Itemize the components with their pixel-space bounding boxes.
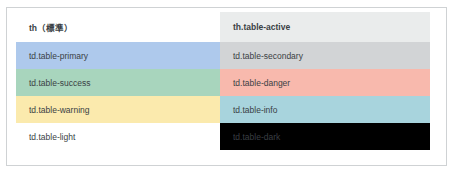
table-body: td.table-primary td.table-secondary td.t… <box>16 42 430 150</box>
table-row: td.table-success td.table-danger <box>16 69 430 96</box>
table-head: th（標準） th.table-active <box>16 12 430 42</box>
table-row: td.table-light td.table-dark <box>16 123 430 150</box>
content-frame: th（標準） th.table-active td.table-primary … <box>6 7 447 166</box>
cell-table-primary: td.table-primary <box>16 42 220 69</box>
table-container: th（標準） th.table-active td.table-primary … <box>16 12 430 150</box>
clipped-top-text: — ——— ————— <box>6 0 98 4</box>
table-row: td.table-warning td.table-info <box>16 96 430 123</box>
cell-table-light: td.table-light <box>16 123 220 150</box>
header-cell-standard: th（標準） <box>16 12 220 42</box>
cell-table-warning: td.table-warning <box>16 96 220 123</box>
cell-table-dark: td.table-dark <box>220 123 430 150</box>
cell-table-info: td.table-info <box>220 96 430 123</box>
table-header-row: th（標準） th.table-active <box>16 12 430 42</box>
header-cell-active: th.table-active <box>220 12 430 42</box>
cell-table-success: td.table-success <box>16 69 220 96</box>
table-row: td.table-primary td.table-secondary <box>16 42 430 69</box>
table-variant-demo: th（標準） th.table-active td.table-primary … <box>16 12 430 150</box>
clipped-top-text-strip: — ——— ————— <box>0 0 455 6</box>
cell-table-secondary: td.table-secondary <box>220 42 430 69</box>
cell-table-danger: td.table-danger <box>220 69 430 96</box>
